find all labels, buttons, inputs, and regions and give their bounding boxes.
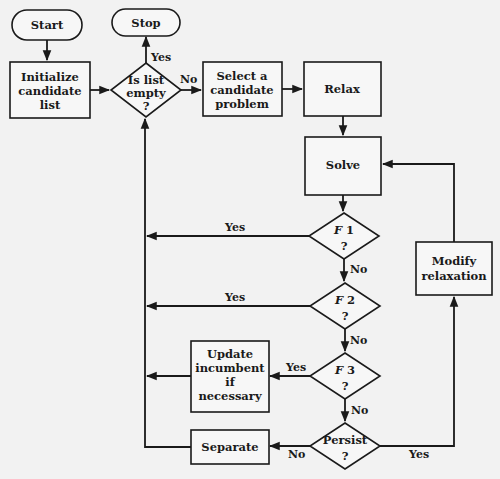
label-f1-yes: Yes xyxy=(224,221,245,234)
node-f1: F 1 ? xyxy=(309,213,379,259)
node-solve: Solve xyxy=(305,137,381,195)
node-modify: Modify relaxation xyxy=(416,242,492,295)
f3-q: ? xyxy=(342,379,349,393)
start-label: Start xyxy=(31,18,64,32)
node-update: Update incumbent if necessary xyxy=(191,341,269,412)
node-f3: F 3 ? xyxy=(310,353,380,399)
node-is-list-empty: Is list empty ? xyxy=(111,63,181,117)
node-initialize: Initialize candidate list xyxy=(10,62,90,118)
empty-line-2: empty xyxy=(126,86,166,100)
update-line-3: if xyxy=(225,375,235,389)
persist-line-2: ? xyxy=(342,449,349,463)
label-f2-yes: Yes xyxy=(224,291,245,304)
label-f1-no: No xyxy=(350,263,367,276)
label-persist-yes: Yes xyxy=(408,448,429,461)
empty-line-1: Is list xyxy=(128,73,165,87)
node-relax: Relax xyxy=(304,62,381,116)
solve-label: Solve xyxy=(326,158,360,172)
f3-label: F 3 xyxy=(334,363,355,377)
stop-label: Stop xyxy=(131,16,160,30)
separate-label: Separate xyxy=(201,440,258,454)
label-persist-no: No xyxy=(288,448,305,461)
relax-label: Relax xyxy=(324,82,360,96)
select-line-1: Select a xyxy=(216,69,268,83)
node-persist: Persist ? xyxy=(310,423,380,469)
select-line-3: problem xyxy=(215,97,269,111)
f2-label: F 2 xyxy=(334,293,355,307)
node-select: Select a candidate problem xyxy=(203,62,282,116)
f1-label: F 1 xyxy=(333,223,354,237)
init-line-1: Initialize xyxy=(21,70,79,84)
node-stop: Stop xyxy=(112,9,180,36)
modify-line-1: Modify xyxy=(432,254,477,268)
edge-modify-solve xyxy=(383,164,454,242)
label-empty-yes: Yes xyxy=(150,51,171,64)
node-f2: F 2 ? xyxy=(310,283,380,329)
empty-line-3: ? xyxy=(143,99,150,113)
f1-q: ? xyxy=(341,239,348,253)
modify-line-2: relaxation xyxy=(421,269,487,283)
node-separate: Separate xyxy=(191,430,269,464)
flowchart: Start Stop Initialize candidate list Is … xyxy=(0,0,500,479)
select-line-2: candidate xyxy=(210,83,273,97)
update-line-2: incumbent xyxy=(195,361,265,375)
label-f3-yes: Yes xyxy=(285,361,306,374)
node-start: Start xyxy=(12,10,82,40)
edge-persist-modify xyxy=(380,297,454,446)
label-f2-no: No xyxy=(350,334,367,347)
edge-return-trunk xyxy=(145,119,191,447)
persist-line-1: Persist xyxy=(323,433,368,447)
update-line-1: Update xyxy=(207,347,253,361)
init-line-3: list xyxy=(40,98,61,112)
label-empty-no: No xyxy=(180,73,197,86)
label-f3-no: No xyxy=(351,404,368,417)
update-line-4: necessary xyxy=(198,389,261,403)
f2-q: ? xyxy=(342,309,349,323)
init-line-2: candidate xyxy=(18,84,81,98)
